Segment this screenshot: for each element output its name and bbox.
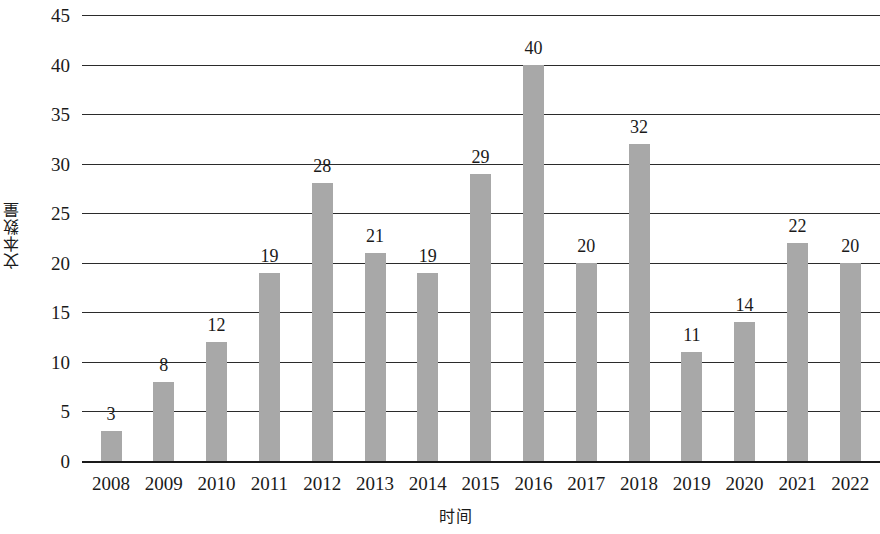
x-tick-label: 2021 (778, 474, 816, 493)
bar-value-label: 12 (208, 316, 226, 334)
bar (153, 382, 174, 461)
bar-value-label: 28 (313, 157, 331, 175)
x-tick-label: 2012 (303, 474, 341, 493)
bar-chart: 文本数量 051015202530354045 3812192821192940… (0, 0, 880, 534)
y-tick-label: 35 (51, 105, 70, 124)
y-axis-title-text: 文本数量 (1, 201, 25, 269)
x-tick-label: 2011 (251, 474, 288, 493)
bar-value-label: 21 (366, 227, 384, 245)
x-tick-label: 2013 (356, 474, 394, 493)
bar-value-label: 19 (419, 247, 437, 265)
x-tick-label: 2008 (92, 474, 130, 493)
y-tick-label: 20 (51, 253, 70, 272)
y-axis-tick-labels: 051015202530354045 (26, 0, 76, 470)
bar-value-label: 22 (788, 217, 806, 235)
bar (417, 273, 438, 461)
x-axis-title-text: 时间 (439, 508, 473, 525)
bar-value-label: 20 (577, 237, 595, 255)
y-tick-label: 5 (61, 402, 71, 421)
x-tick-label: 2014 (409, 474, 447, 493)
bar (470, 174, 491, 461)
y-tick-label: 45 (51, 6, 70, 25)
x-tick-label: 2017 (567, 474, 605, 493)
bar (101, 431, 122, 461)
plot-area: 3812192821192940203211142220 (82, 0, 880, 470)
x-tick-label: 2020 (726, 474, 764, 493)
bar (840, 263, 861, 461)
bar (734, 322, 755, 461)
bar-value-label: 20 (841, 237, 859, 255)
x-tick-label: 2015 (462, 474, 500, 493)
bar (365, 253, 386, 461)
x-tick-label: 2010 (198, 474, 236, 493)
y-tick-label: 15 (51, 303, 70, 322)
y-tick-label: 25 (51, 204, 70, 223)
bar (576, 263, 597, 461)
bar-series: 3812192821192940203211142220 (82, 0, 880, 470)
y-tick-label: 0 (61, 452, 71, 471)
bar-value-label: 3 (107, 405, 116, 423)
bar (206, 342, 227, 461)
x-tick-label: 2022 (831, 474, 869, 493)
bar-value-label: 8 (159, 356, 168, 374)
bar (681, 352, 702, 461)
bar-value-label: 14 (736, 296, 754, 314)
bar (787, 243, 808, 461)
bar-value-label: 29 (472, 148, 490, 166)
x-axis-title: 时间 (0, 503, 880, 527)
x-tick-label: 2019 (673, 474, 711, 493)
y-axis-title: 文本数量 (0, 0, 26, 470)
x-tick-label: 2018 (620, 474, 658, 493)
x-tick-label: 2009 (145, 474, 183, 493)
y-tick-label: 10 (51, 352, 70, 371)
y-tick-label: 40 (51, 55, 70, 74)
x-tick-label: 2016 (514, 474, 552, 493)
bar-value-label: 11 (683, 326, 700, 344)
x-axis-tick-labels: 2008200920102011201220132014201520162017… (82, 470, 880, 502)
bar (629, 144, 650, 461)
y-tick-label: 30 (51, 154, 70, 173)
bar-value-label: 40 (524, 39, 542, 57)
bar-value-label: 19 (260, 247, 278, 265)
bar (523, 65, 544, 461)
bar-value-label: 32 (630, 118, 648, 136)
bar (259, 273, 280, 461)
bar (312, 183, 333, 461)
